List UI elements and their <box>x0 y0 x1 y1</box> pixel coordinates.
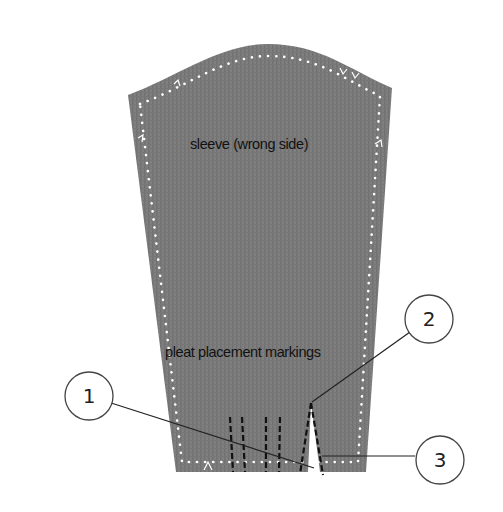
sleeve-pattern-piece <box>128 44 392 475</box>
callout-3: 3 <box>416 436 464 484</box>
callout-3-number: 3 <box>434 448 447 472</box>
callout-2-number: 2 <box>423 307 436 331</box>
callout-1-number: 1 <box>83 384 96 408</box>
sleeve-label: sleeve (wrong side) <box>190 136 308 152</box>
sleeve-pleat-diagram: sleeve (wrong side) pleat placement mark… <box>0 0 503 512</box>
callout-2: 2 <box>405 295 453 343</box>
callout-1: 1 <box>65 372 113 420</box>
pleat-markings-label: pleat placement markings <box>165 344 321 360</box>
